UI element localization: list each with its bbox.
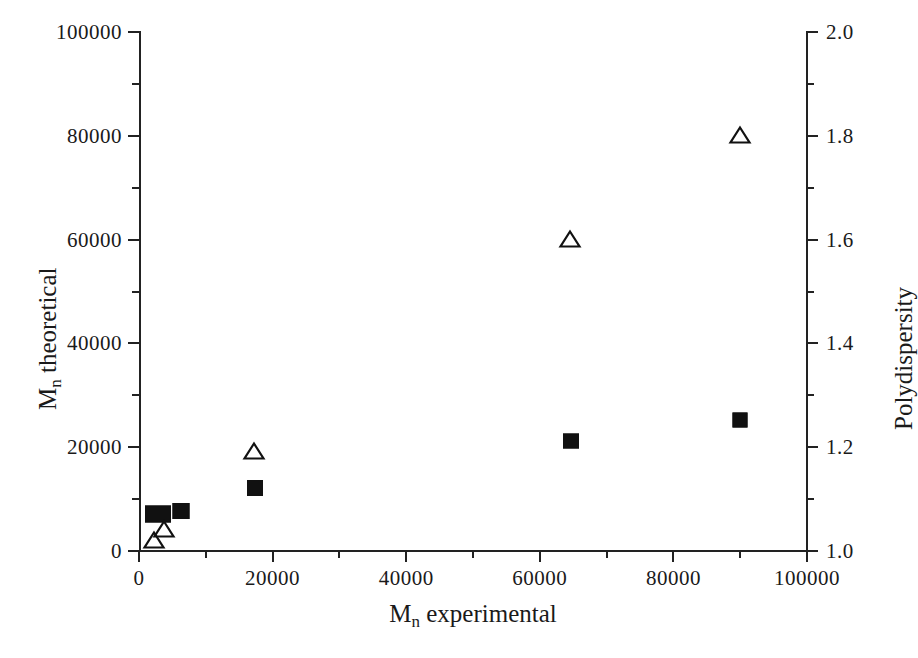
y-ticklabel-right-0: 1.0: [826, 539, 854, 564]
data-point-square: [733, 413, 748, 428]
y-ticklabel-left-5: 100000: [0, 20, 122, 45]
x-ticklabel-0: 0: [134, 566, 145, 591]
x-axis-title-sub: n: [411, 612, 420, 631]
y-ticklabel-left-3: 60000: [0, 227, 122, 252]
data-point-square: [173, 503, 190, 519]
x-axis-title-rest: experimental: [420, 600, 557, 627]
y-ticklabel-right-4: 1.8: [826, 123, 854, 148]
data-point-triangle: [154, 520, 175, 538]
y-ticklabel-right-3: 1.6: [826, 227, 854, 252]
y-ticklabel-left-1: 20000: [0, 435, 122, 460]
y-ticklabel-left-0: 0: [0, 539, 122, 564]
x-ticklabel-3: 60000: [512, 566, 567, 591]
y-axis-right-title-text: Polydispersity: [890, 287, 917, 430]
data-point-square: [563, 434, 579, 449]
x-axis-title: Mn experimental: [389, 600, 556, 632]
y-axis-left-title: Mn theoretical: [34, 268, 66, 410]
y-ticklabel-right-1: 1.2: [826, 435, 854, 460]
y-axis-left-title-sub: n: [46, 379, 65, 388]
y-axis-left-title-main: M: [34, 388, 61, 410]
x-axis-title-main: M: [389, 600, 411, 627]
data-point-triangle: [243, 442, 264, 460]
y-ticklabel-left-4: 80000: [0, 123, 122, 148]
x-ticklabel-4: 80000: [646, 566, 701, 591]
plot-data-area: [139, 31, 808, 552]
y-ticklabel-right-2: 1.4: [826, 331, 854, 356]
y-axis-left-title-rest: theoretical: [34, 268, 61, 380]
y-axis-right-title: Polydispersity: [890, 287, 918, 430]
x-ticklabel-2: 40000: [379, 566, 434, 591]
x-ticklabel-5: 100000: [774, 566, 840, 591]
data-point-square: [247, 480, 263, 496]
data-point-triangle: [730, 126, 751, 144]
x-ticklabel-1: 20000: [245, 566, 300, 591]
y-ticklabel-right-5: 2.0: [826, 20, 854, 45]
data-point-triangle: [559, 230, 580, 248]
